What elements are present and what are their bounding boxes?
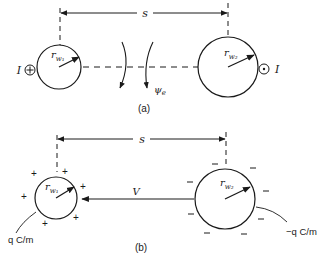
svg-text:+: + xyxy=(21,191,27,202)
svg-text:+: + xyxy=(31,168,37,179)
caption-a: (a) xyxy=(138,103,150,114)
charge-label-right: −q C/m xyxy=(286,226,317,237)
svg-text:+: + xyxy=(73,212,79,223)
voltage-arrow: V xyxy=(82,186,194,199)
right-conductor-b: rw₂ −q C/m xyxy=(187,164,317,237)
caption-b: (b) xyxy=(135,242,147,253)
positive-charges: + + + + + + xyxy=(21,166,86,229)
charge-leader-line xyxy=(16,212,36,233)
svg-text:+: + xyxy=(62,166,68,177)
radius-label: rw₁ xyxy=(51,49,65,63)
charge-leader-line xyxy=(256,207,287,222)
two-wire-line-diagram: s rw₁ I ψe rw₂ I (a) xyxy=(0,0,330,265)
dimension-s-a: s xyxy=(60,3,228,45)
flux-arrow-left xyxy=(120,42,126,88)
radius-label: rw₂ xyxy=(220,177,234,191)
panel-b: s rw₁ + + + + + + q C/m V xyxy=(8,132,317,253)
left-conductor-b: rw₁ + + + + + + q C/m xyxy=(8,166,86,245)
svg-text:+: + xyxy=(42,218,48,229)
dimension-s-b: s xyxy=(57,132,226,172)
flux-label: ψe xyxy=(154,84,166,97)
charge-label-left: q C/m xyxy=(8,234,33,245)
radius-label: rw₁ xyxy=(45,181,59,195)
panel-a: s rw₁ I ψe rw₂ I (a) xyxy=(16,3,280,114)
radius-arrow xyxy=(56,187,74,198)
dimension-label: s xyxy=(142,7,148,20)
dimension-label: s xyxy=(139,133,145,146)
flux-arrow-right xyxy=(146,42,153,88)
negative-charges xyxy=(187,164,269,234)
radius-label: rw₂ xyxy=(224,47,238,61)
voltage-label: V xyxy=(132,186,141,197)
current-label-right: I xyxy=(274,63,280,76)
flux-lines: ψe xyxy=(120,42,166,97)
left-conductor-a: rw₁ I xyxy=(16,45,81,89)
current-label-left: I xyxy=(16,64,22,77)
svg-text:+: + xyxy=(80,181,86,192)
right-conductor-a: rw₂ I xyxy=(198,37,280,97)
